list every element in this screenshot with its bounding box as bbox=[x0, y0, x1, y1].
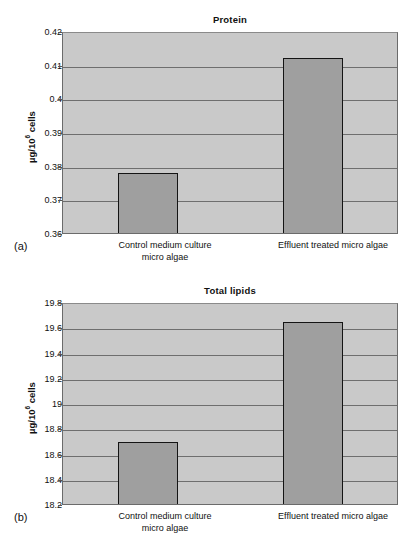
gridline bbox=[63, 380, 397, 381]
gridline bbox=[63, 456, 397, 457]
gridline bbox=[63, 168, 397, 169]
gridline bbox=[63, 134, 397, 135]
y-tick-mark bbox=[58, 505, 62, 506]
bar-a-0 bbox=[118, 173, 178, 234]
chart-panel-b: Total lipids µg/106 cells 18.218.418.618… bbox=[0, 271, 415, 542]
panel-label-a: (a) bbox=[14, 240, 27, 252]
category-label-a-1: Effluent treated micro algae bbox=[266, 239, 400, 251]
y-tick-label: 19.8 bbox=[8, 298, 62, 308]
panel-label-b: (b) bbox=[14, 511, 27, 523]
bar-b-0 bbox=[118, 442, 178, 505]
y-axis-ticks-a: 0.360.370.380.390.40.410.42 bbox=[0, 32, 62, 234]
bar-b-1 bbox=[283, 322, 343, 505]
gridline bbox=[63, 481, 397, 482]
y-tick-label: 0.41 bbox=[8, 61, 62, 71]
category-label-b-0: Control medium culture micro algae bbox=[62, 510, 268, 534]
y-tick-label: 0.4 bbox=[8, 94, 62, 104]
y-tick-label: 18.4 bbox=[8, 475, 62, 485]
y-tick-label: 18.8 bbox=[8, 424, 62, 434]
plot-area-b bbox=[62, 303, 398, 505]
y-tick-label: 0.42 bbox=[8, 27, 62, 37]
y-tick-label: 0.38 bbox=[8, 162, 62, 172]
y-tick-label: 19.6 bbox=[8, 323, 62, 333]
y-tick-label: 18.6 bbox=[8, 450, 62, 460]
gridline bbox=[63, 67, 397, 68]
bar-a-1 bbox=[283, 58, 343, 234]
chart-title-total-lipids: Total lipids bbox=[62, 285, 398, 296]
gridline bbox=[63, 355, 397, 356]
chart-panel-a: Protein µg/106 cells 0.360.370.380.390.4… bbox=[0, 0, 415, 271]
gridline bbox=[63, 329, 397, 330]
chart-title-protein: Protein bbox=[62, 14, 398, 25]
category-label-a-0: Control medium culture micro algae bbox=[62, 239, 268, 263]
plot-area-a bbox=[62, 32, 398, 234]
y-axis-ticks-b: 18.218.418.618.81919.219.419.619.8 bbox=[0, 303, 62, 505]
y-tick-label: 18.2 bbox=[8, 500, 62, 510]
y-tick-label: 19 bbox=[8, 399, 62, 409]
y-tick-label: 0.36 bbox=[8, 229, 62, 239]
category-label-b-1: Effluent treated micro algae bbox=[266, 510, 400, 522]
gridline bbox=[63, 405, 397, 406]
y-tick-mark bbox=[58, 234, 62, 235]
gridline bbox=[63, 430, 397, 431]
y-tick-label: 0.39 bbox=[8, 128, 62, 138]
y-tick-label: 0.37 bbox=[8, 195, 62, 205]
y-tick-label: 19.4 bbox=[8, 349, 62, 359]
y-tick-label: 19.2 bbox=[8, 374, 62, 384]
gridline bbox=[63, 201, 397, 202]
figure-container: Protein µg/106 cells 0.360.370.380.390.4… bbox=[0, 0, 415, 542]
gridline bbox=[63, 100, 397, 101]
